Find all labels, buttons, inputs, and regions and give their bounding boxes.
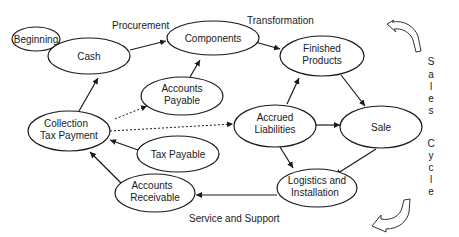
edge-taxpayable-collection [110, 140, 138, 150]
node-label: Collection [44, 118, 88, 129]
side-letter: c [429, 162, 434, 173]
edge-finished-sale [341, 75, 365, 106]
node-label: Components [185, 33, 242, 44]
node-sale[interactable]: Sale [340, 106, 422, 148]
side-letter: e [428, 186, 434, 197]
edge-sale-logistics [335, 149, 376, 175]
node-collection-tax-payment[interactable]: Collection Tax Payment [28, 111, 110, 151]
edge-collection-cash [79, 78, 98, 111]
node-label: Cash [77, 51, 100, 62]
edge-accrued-logistics [280, 147, 293, 168]
side-letter: a [428, 69, 434, 80]
node-accounts-receivable[interactable]: Accounts Receivable [115, 174, 195, 212]
node-label: Payable [164, 95, 201, 106]
sales-cycle-diagram: Beginning Cash Components Finished Produ… [0, 0, 459, 237]
node-label: Accrued [257, 112, 294, 123]
section-label-procurement: Procurement [112, 20, 169, 31]
edge-payable-components [190, 60, 200, 77]
node-label: Finished [303, 43, 341, 54]
node-label: Beginning [14, 34, 58, 45]
node-label: Liabilities [254, 124, 295, 135]
side-letter: l [430, 174, 432, 185]
sales-cycle-label: S a l e s C y c l e [427, 56, 434, 197]
curved-arrow-bottom-icon [372, 199, 410, 232]
side-letter: S [428, 56, 435, 67]
node-finished-products[interactable]: Finished Products [280, 36, 364, 76]
node-cash[interactable]: Cash [48, 38, 130, 74]
node-label: Sale [371, 122, 391, 133]
node-logistics-installation[interactable]: Logistics and Installation [277, 169, 357, 207]
side-letter: l [430, 81, 432, 92]
edge-collection-payable [115, 106, 147, 119]
edge-collection-accrued [110, 124, 233, 131]
node-label: Products [302, 55, 341, 66]
section-label-transformation: Transformation [247, 15, 314, 26]
node-label: Accounts [161, 83, 202, 94]
side-letter: s [429, 105, 434, 116]
node-label: Receivable [130, 192, 180, 203]
side-letter: C [427, 138, 434, 149]
node-tax-payable[interactable]: Tax Payable [137, 136, 219, 172]
side-letter: y [429, 150, 434, 161]
node-label: Installation [291, 187, 339, 198]
node-label: Tax Payment [40, 130, 98, 141]
side-letter: e [428, 93, 434, 104]
node-label: Accounts [131, 180, 172, 191]
node-components[interactable]: Components [167, 21, 259, 55]
node-label: Logistics and [288, 175, 346, 186]
node-accrued-liabilities[interactable]: Accrued Liabilities [234, 105, 316, 147]
section-label-service: Service and Support [189, 213, 280, 224]
curved-arrow-top-icon [387, 20, 421, 52]
edge-cash-components [130, 41, 166, 50]
edge-receivable-collection [90, 152, 121, 183]
edge-accrued-finished [287, 78, 299, 104]
node-label: Tax Payable [151, 149, 206, 160]
node-accounts-payable[interactable]: Accounts Payable [141, 77, 223, 115]
